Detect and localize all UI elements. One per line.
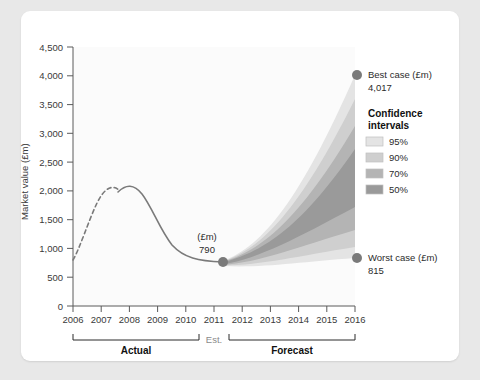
x-axis-ticks (73, 306, 355, 312)
x-tick-label: 2009 (147, 314, 168, 325)
y-axis-title: Market value (£m) (19, 143, 30, 220)
legend-label-95: 95% (389, 136, 409, 147)
x-tick-label: 2012 (232, 314, 253, 325)
bracket-label-forecast: Forecast (271, 345, 313, 356)
legend-title-line1: Confidence (368, 108, 423, 119)
y-tick-label: 2,500 (39, 157, 63, 168)
y-tick-label: 3,500 (39, 99, 63, 110)
y-tick-label: 3,000 (39, 128, 63, 139)
legend-label-50: 50% (389, 184, 409, 195)
x-tick-label: 2014 (288, 314, 309, 325)
anchor-unit-label: (£m) (197, 231, 217, 242)
x-tick-label: 2008 (119, 314, 140, 325)
bracket-label-est: Est. (206, 334, 222, 345)
y-tick-label: 2,000 (39, 185, 63, 196)
x-tick-label: 2010 (175, 314, 196, 325)
x-tick-label: 2013 (260, 314, 281, 325)
period-brackets: Actual Est. Forecast (73, 334, 355, 356)
legend-title-line2: intervals (368, 120, 410, 131)
x-tick-label: 2015 (316, 314, 337, 325)
y-tick-label: 500 (47, 272, 63, 283)
x-tick-label: 2016 (344, 314, 365, 325)
x-tick-label: 2007 (91, 314, 112, 325)
legend-swatch-50[interactable] (366, 185, 383, 194)
fan-chart: 4,500 4,000 3,500 3,000 2,500 2,000 1,50… (0, 0, 480, 380)
y-tick-label: 1,000 (39, 243, 63, 254)
anchor-value-label: 790 (199, 244, 215, 255)
legend-swatch-90[interactable] (366, 153, 383, 162)
best-case-value: 4,017 (368, 82, 392, 93)
worst-case-value: 815 (368, 265, 384, 276)
worst-case-marker[interactable] (352, 253, 362, 263)
worst-case-label: Worst case (£m) (368, 252, 438, 263)
best-case-marker[interactable] (352, 70, 362, 80)
legend-swatch-95[interactable] (366, 137, 383, 146)
y-tick-label: 1,500 (39, 214, 63, 225)
y-tick-label: 4,000 (39, 70, 63, 81)
y-axis-ticks (67, 47, 73, 306)
legend-label-70: 70% (389, 168, 409, 179)
legend: Confidence intervals 95% 90% 70% 50% (366, 108, 423, 195)
y-tick-label: 0 (58, 301, 63, 312)
legend-swatch-70[interactable] (366, 169, 383, 178)
legend-label-90: 90% (389, 152, 409, 163)
bracket-label-actual: Actual (121, 345, 152, 356)
x-tick-label: 2006 (62, 314, 83, 325)
best-case-label: Best case (£m) (368, 69, 432, 80)
y-tick-label: 4,500 (39, 42, 63, 53)
anchor-marker-2011[interactable] (218, 257, 228, 267)
x-tick-label: 2011 (204, 314, 224, 325)
